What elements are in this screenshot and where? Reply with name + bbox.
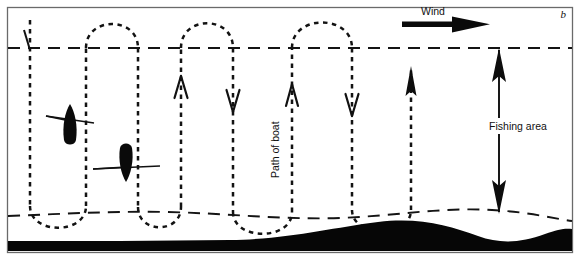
- fishing-area-label: Fishing area: [489, 120, 547, 132]
- wind-arrow-shaft: [402, 22, 458, 28]
- path-of-boat-label: Path of boat: [269, 121, 281, 178]
- panel-label: b: [561, 8, 567, 20]
- wind-label: Wind: [421, 5, 445, 17]
- figure-panel: Wind Fishing area Path of boat b: [0, 0, 580, 258]
